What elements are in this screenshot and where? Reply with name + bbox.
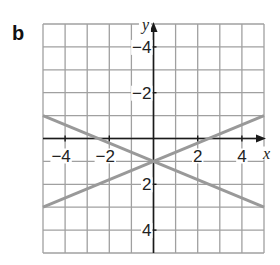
x-tick-label: 4 [237,147,246,166]
y-axis-label: y [140,16,150,34]
tick-labels: −4−22442−2−4xy [50,16,271,240]
axes [43,22,266,253]
x-tick-label: −2 [96,147,115,166]
x-tick-label: 2 [193,147,202,166]
coordinate-graph: −4−22442−2−4xy [0,0,280,265]
y-tick-label: 2 [142,175,151,194]
y-tick-label: −2 [132,84,151,103]
x-tick-label: −4 [51,147,70,166]
x-axis-label: x [262,145,270,162]
y-tick-label: −4 [132,38,151,57]
y-tick-label: 4 [142,221,151,240]
